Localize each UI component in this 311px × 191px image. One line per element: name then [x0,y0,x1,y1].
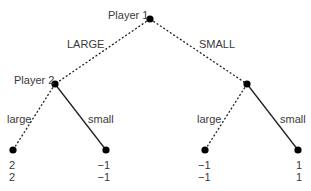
payoff-leaf3-p2: −1 [198,172,211,183]
payoff-leaf2-p1: −1 [90,160,110,171]
payoff-leaf4-p2: 1 [282,172,302,183]
edge-small-p1 [150,19,247,84]
payoff-leaf1-p1: 2 [9,160,15,171]
edge-label-LARGE: LARGE [67,38,104,50]
payoff-leaf4-p1: 1 [282,160,302,171]
player2-label: Player 2 [14,74,54,86]
leaf-node-4 [294,146,301,153]
node-player2-right [243,80,250,87]
leaf-node-2 [102,146,109,153]
edge-label-right-large: large [197,113,221,125]
edge-large-p1 [55,19,150,84]
leaf-node-1 [9,146,16,153]
edge-label-left-large: large [7,113,31,125]
edge-label-left-small: small [88,113,114,125]
game-tree [0,0,311,191]
edge-label-right-small: small [280,113,306,125]
payoff-leaf3-p1: −1 [198,160,211,171]
leaf-node-3 [201,146,208,153]
payoff-leaf2-p2: −1 [90,172,110,183]
edge-label-SMALL: SMALL [199,38,235,50]
payoff-leaf1-p2: 2 [9,172,15,183]
player1-label: Player 1 [108,9,148,21]
